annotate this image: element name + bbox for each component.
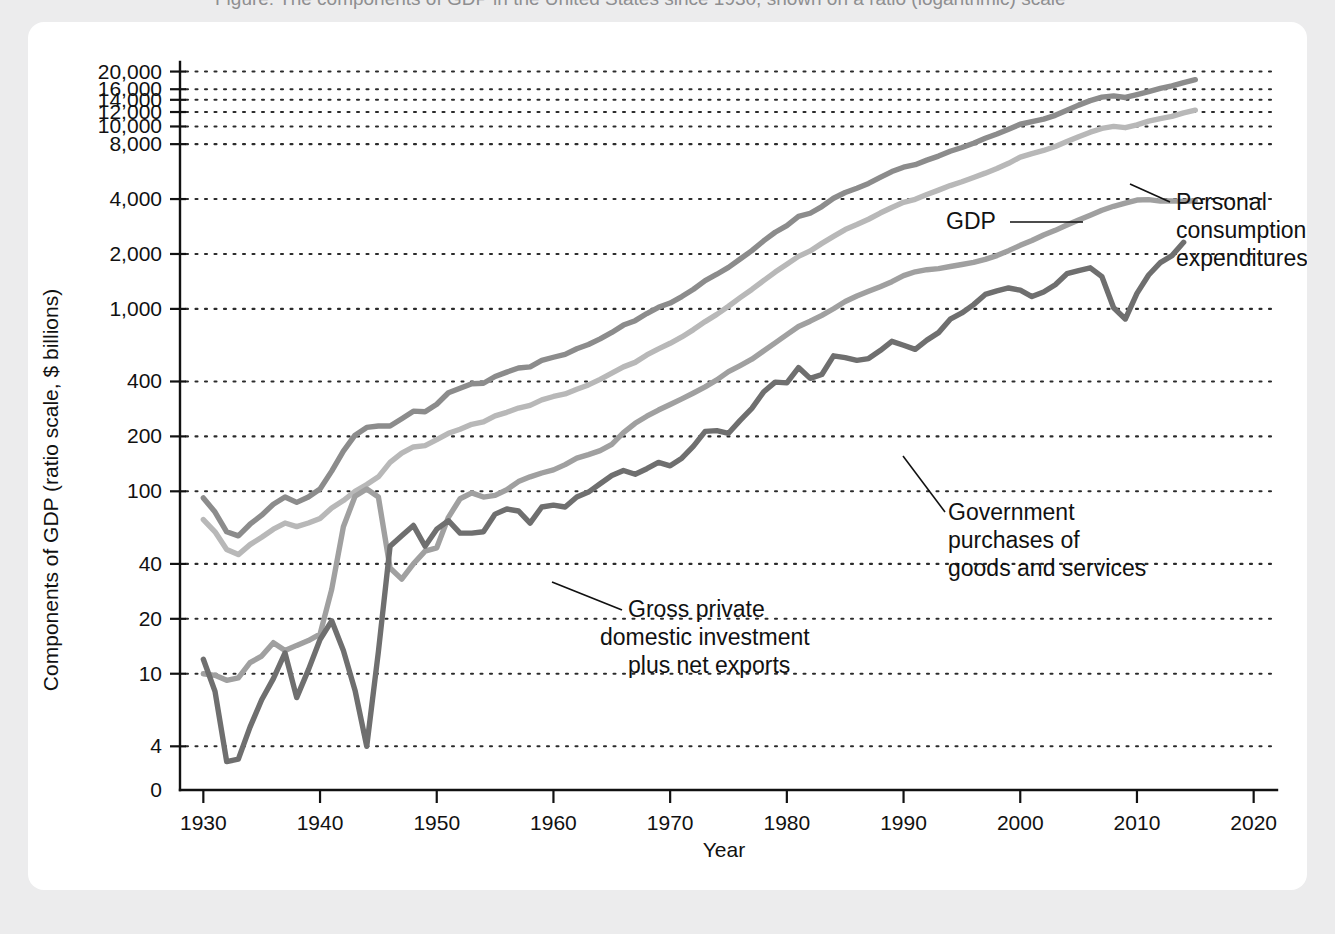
x-tick-label: 1970: [647, 811, 694, 834]
series-line-personal-consumption-expenditures: [203, 110, 1195, 554]
government-annotation-line-2: purchases of: [948, 527, 1080, 553]
gdp-annotation-label: GDP: [946, 208, 996, 234]
cropped-caption-strip: Figure: The components of GDP in the Uni…: [0, 0, 1335, 12]
investment-annotation: Gross private domestic investment plus n…: [552, 582, 810, 678]
x-tick-label: 1930: [180, 811, 227, 834]
y-tick-label: 100: [127, 479, 162, 502]
y-tick-label: 200: [127, 424, 162, 447]
pce-annotation-line-1: Personal: [1176, 189, 1267, 215]
government-annotation-line-1: Government: [948, 499, 1075, 525]
government-annotation: Government purchases of goods and servic…: [903, 456, 1146, 581]
government-annotation-leader: [903, 456, 945, 512]
x-axis-title: Year: [703, 838, 745, 861]
x-tick-label: 2020: [1230, 811, 1277, 834]
x-tick-label: 2000: [997, 811, 1044, 834]
y-tick-label: 20: [139, 607, 162, 630]
gdp-annotation: GDP: [946, 208, 1083, 234]
y-tick-label: 1,000: [109, 297, 162, 320]
y-tick-label-zero: 0: [150, 778, 162, 801]
x-tick-label: 1960: [530, 811, 577, 834]
investment-annotation-line-3: plus net exports: [628, 652, 790, 678]
y-tick-labels-group: 41020401002004001,0002,0004,0008,00010,0…: [98, 60, 163, 801]
pce-annotation-line-2: consumption: [1176, 217, 1306, 243]
x-tick-label: 1990: [880, 811, 927, 834]
government-annotation-line-3: goods and services: [948, 555, 1146, 581]
x-tick-label: 1950: [413, 811, 460, 834]
investment-annotation-line-2: domestic investment: [600, 624, 810, 650]
y-tick-label: 4,000: [109, 187, 162, 210]
y-tick-label: 4: [150, 734, 162, 757]
figure-page: 41020401002004001,0002,0004,0008,00010,0…: [0, 0, 1335, 934]
gdp-components-line-chart: 41020401002004001,0002,0004,0008,00010,0…: [28, 22, 1307, 890]
x-tick-label: 1980: [763, 811, 810, 834]
y-tick-label: 400: [127, 369, 162, 392]
pce-annotation: Personal consumption expenditures: [1130, 184, 1307, 271]
y-tick-label: 40: [139, 552, 162, 575]
x-tick-labels-group: 1930194019501960197019801990200020102020: [180, 811, 1277, 834]
x-tick-label: 1940: [297, 811, 344, 834]
pce-annotation-line-3: expenditures: [1176, 245, 1307, 271]
x-tick-label: 2010: [1114, 811, 1161, 834]
tick-marks-group: [170, 72, 1254, 803]
y-tick-label: 10: [139, 662, 162, 685]
y-tick-label: 20,000: [98, 60, 162, 83]
investment-annotation-line-1: Gross private: [628, 596, 765, 622]
cropped-caption-text: Figure: The components of GDP in the Uni…: [215, 0, 1066, 10]
chart-card: 41020401002004001,0002,0004,0008,00010,0…: [28, 22, 1307, 890]
investment-annotation-leader: [552, 582, 622, 610]
y-axis-title: Components of GDP (ratio scale, $ billio…: [39, 289, 62, 691]
y-tick-label: 2,000: [109, 242, 162, 265]
